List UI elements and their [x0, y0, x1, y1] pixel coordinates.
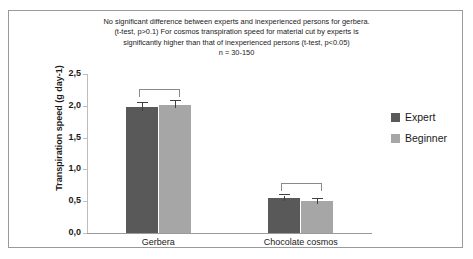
significance-bracket — [139, 89, 180, 97]
y-tick-mark — [83, 201, 87, 202]
legend-item-expert[interactable]: Expert — [391, 111, 469, 123]
legend-item-beginner[interactable]: Beginner — [391, 132, 469, 144]
chart-title-line-1: No significant difference between expert… — [29, 17, 444, 27]
error-bar — [284, 196, 285, 201]
y-tick-mark — [83, 169, 87, 170]
y-tick-mark — [83, 138, 87, 139]
legend-label: Expert — [405, 111, 435, 123]
x-tick-label-gerbera: Gerbera — [87, 237, 230, 247]
chart-title-line-3: significantly higher than that of inexpe… — [29, 38, 444, 48]
chart-title-line-4: n = 30-150 — [29, 48, 444, 58]
bar-group-gerbera — [126, 74, 191, 233]
error-bar-cap — [279, 194, 290, 195]
chart-title-line-2: (t-test, p>0.1) For cosmos transpiration… — [29, 27, 444, 37]
legend-label: Beginner — [405, 132, 447, 144]
x-axis-line — [87, 233, 372, 234]
significance-bracket — [281, 183, 322, 191]
bar-beginner-chocolate-cosmos[interactable] — [301, 201, 333, 233]
bar-expert-gerbera[interactable] — [126, 107, 158, 233]
error-bar — [317, 199, 318, 204]
y-tick-mark — [83, 106, 87, 107]
bar-expert-chocolate-cosmos[interactable] — [268, 198, 300, 233]
bar-beginner-gerbera[interactable] — [159, 105, 191, 233]
legend: ExpertBeginner — [391, 111, 469, 153]
legend-swatch-icon — [391, 134, 400, 143]
error-bar-cap — [312, 198, 323, 199]
legend-swatch-icon — [391, 113, 400, 122]
error-bar — [175, 101, 176, 109]
y-tick-label: 1,0 — [41, 163, 81, 173]
chart-frame: No significant difference between expert… — [8, 10, 463, 248]
y-tick-label: 2,5 — [41, 68, 81, 78]
y-tick-label: 0,0 — [41, 227, 81, 237]
y-axis-line — [87, 74, 88, 234]
y-tick-label: 0,5 — [41, 195, 81, 205]
chart-title: No significant difference between expert… — [29, 17, 444, 59]
y-tick-mark — [83, 233, 87, 234]
bar-group-chocolate-cosmos — [268, 74, 333, 233]
error-bar-cap — [170, 100, 181, 101]
error-bar — [142, 103, 143, 111]
y-axis-tick-labels: 0,00,51,01,52,02,5 — [37, 74, 81, 234]
x-axis-tick-labels: GerberaChocolate cosmos — [87, 237, 372, 253]
plot-area — [87, 74, 372, 234]
y-tick-label: 2,0 — [41, 100, 81, 110]
error-bar-cap — [137, 102, 148, 103]
y-tick-mark — [83, 74, 87, 75]
y-tick-label: 1,5 — [41, 132, 81, 142]
x-tick-label-chocolate-cosmos: Chocolate cosmos — [230, 237, 373, 247]
